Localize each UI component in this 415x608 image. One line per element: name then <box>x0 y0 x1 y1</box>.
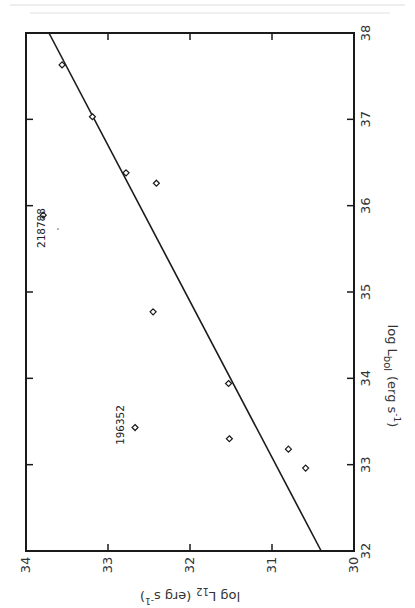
fit-line <box>49 33 321 551</box>
svg-text:33: 33 <box>100 557 115 574</box>
tick-label: 34 <box>18 557 33 574</box>
svg-text:218788: 218788 <box>35 208 48 248</box>
tick-label: 31 <box>264 557 279 574</box>
plot-frame <box>26 33 354 551</box>
svg-text:38: 38 <box>358 25 373 42</box>
data-point-diamond-icon <box>285 446 291 452</box>
x-axis-ticks: 32333435363738 <box>26 25 373 560</box>
tick-label: 34 <box>358 370 373 387</box>
stray-dot <box>57 228 59 230</box>
tick-label: 30 <box>346 557 361 574</box>
svg-text:32: 32 <box>182 557 197 574</box>
tick-label: 32 <box>182 557 197 574</box>
tick-label: 33 <box>100 557 115 574</box>
tick-label: 35 <box>358 284 373 301</box>
data-point-diamond-icon <box>153 180 159 186</box>
annotation-218788: 218788 <box>35 208 48 248</box>
tick-label: 38 <box>358 25 373 42</box>
svg-text:log L12(erg s-1): log L12(erg s-1) <box>140 586 240 606</box>
svg-text:37: 37 <box>358 111 373 128</box>
svg-text:30: 30 <box>346 557 361 574</box>
svg-text:34: 34 <box>358 370 373 387</box>
svg-text:34: 34 <box>18 557 33 574</box>
data-point-diamond-icon <box>226 436 232 442</box>
data-point-diamond-icon <box>226 381 232 387</box>
y-axis-ticks: 3031323334 <box>18 33 361 573</box>
x-axis-label: log Lbol(erg s-1) <box>382 325 402 428</box>
data-point-diamond-icon <box>132 425 138 431</box>
svg-text:33: 33 <box>358 456 373 473</box>
data-point-diamond-icon <box>303 465 309 471</box>
svg-text:35: 35 <box>358 284 373 301</box>
data-point-diamond-icon <box>150 309 156 315</box>
y-axis-label: log L12(erg s-1) <box>140 586 240 606</box>
tick-label: 33 <box>358 456 373 473</box>
svg-text:log Lbol(erg s-1): log Lbol(erg s-1) <box>382 325 402 428</box>
data-points <box>40 62 308 471</box>
tick-label: 36 <box>358 197 373 214</box>
svg-text:36: 36 <box>358 197 373 214</box>
tick-label: 37 <box>358 111 373 128</box>
svg-text:196352: 196352 <box>114 405 127 445</box>
bleed-through-text <box>10 4 405 14</box>
rotated-scatter-chart: 32333435363738 3031323334 log Lbol(erg s… <box>0 0 415 608</box>
svg-text:31: 31 <box>264 557 279 574</box>
annotation-196352: 196352 <box>114 405 127 445</box>
